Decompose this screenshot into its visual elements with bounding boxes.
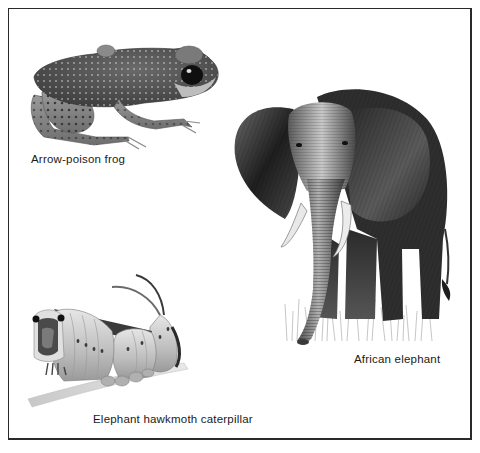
caterpillar-illustration — [24, 271, 224, 411]
frog-figure — [24, 37, 224, 152]
illustration-plate: Arrow-poison frog — [8, 8, 472, 440]
elephant-figure — [227, 79, 457, 351]
caterpillar-figure — [24, 271, 224, 411]
frog-illustration — [24, 37, 224, 152]
caterpillar-caption: Elephant hawkmoth caterpillar — [93, 413, 253, 425]
frog-caption: Arrow-poison frog — [31, 153, 125, 165]
elephant-caption: African elephant — [354, 353, 440, 365]
elephant-illustration — [227, 79, 457, 351]
